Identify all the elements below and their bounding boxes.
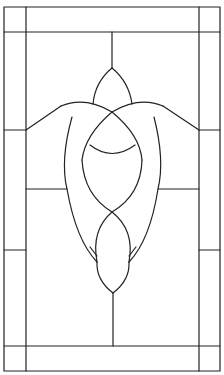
inner-braid-right (96, 160, 142, 262)
pattern-drawing (0, 0, 224, 375)
stained-glass-pattern (0, 0, 224, 375)
bud-right-curve (112, 68, 132, 104)
outer-right-curve (129, 117, 161, 262)
right-diagonal (163, 106, 199, 130)
drop-left-curve (97, 262, 113, 293)
drop-right-curve (113, 262, 129, 293)
bud-left-curve (93, 68, 112, 104)
inner-braid-left (82, 160, 130, 262)
outer-left-curve (64, 117, 97, 262)
cup-curve (90, 145, 135, 154)
left-diagonal (26, 106, 61, 130)
